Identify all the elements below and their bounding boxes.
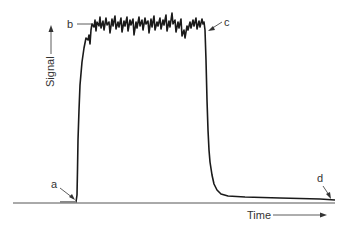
- x-axis-arrowhead-icon: [320, 213, 327, 218]
- x-axis-label: Time: [247, 209, 271, 221]
- label-c: c: [224, 16, 230, 28]
- label-b: b: [67, 18, 73, 30]
- y-axis-arrowhead-icon: [49, 25, 54, 32]
- label-d: d: [317, 172, 323, 184]
- arrowhead-a-icon: [69, 194, 75, 200]
- arrowhead-d-icon: [326, 192, 331, 199]
- signal-diagram: a b c d Time Signal: [0, 0, 348, 227]
- label-a: a: [51, 178, 58, 190]
- y-axis-label: Signal: [44, 56, 56, 87]
- signal-curve: [60, 13, 335, 202]
